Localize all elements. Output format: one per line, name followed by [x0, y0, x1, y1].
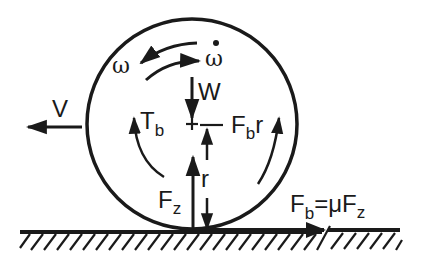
brake-moment-label: Fbr: [231, 111, 263, 143]
omega-label: ω: [112, 53, 130, 78]
omega-dot-label: ω: [205, 46, 223, 71]
wheel-center-mark: [186, 118, 223, 130]
velocity-label: V: [52, 95, 68, 122]
omega-dot-marker: [213, 40, 219, 46]
radius-label: r: [201, 165, 209, 192]
brake-torque-label: Tb: [140, 107, 164, 140]
weight-label: W: [198, 78, 221, 105]
wheel-free-body-diagram: V ω ω W r Fz Tb Fbr Fb=μFz: [0, 0, 425, 276]
normal-force-label: Fz: [158, 186, 181, 218]
friction-equation-label: Fb=μFz: [290, 190, 365, 223]
